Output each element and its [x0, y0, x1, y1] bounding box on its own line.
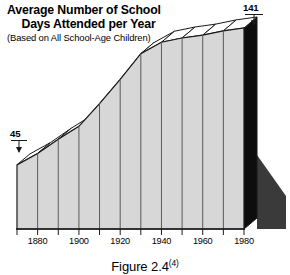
x-axis-tick-label: 1920	[103, 236, 137, 246]
figure-caption-superscript: (4)	[169, 258, 179, 268]
start-value-label: 45	[10, 128, 20, 139]
figure-caption: Figure 2.4(4)	[0, 258, 290, 274]
x-axis-tick-label: 1880	[21, 236, 55, 246]
end-value-label: 141	[243, 2, 258, 13]
figure-container: Average Number of School Days Attended p…	[0, 0, 290, 275]
x-axis-tick-label: 1960	[186, 236, 220, 246]
area-chart-graphic	[0, 0, 290, 275]
x-axis-tick-label: 1940	[144, 236, 178, 246]
figure-caption-text: Figure 2.4	[111, 259, 169, 274]
x-axis-tick-label: 1900	[62, 236, 96, 246]
x-axis-tick-label: 1980	[227, 236, 261, 246]
